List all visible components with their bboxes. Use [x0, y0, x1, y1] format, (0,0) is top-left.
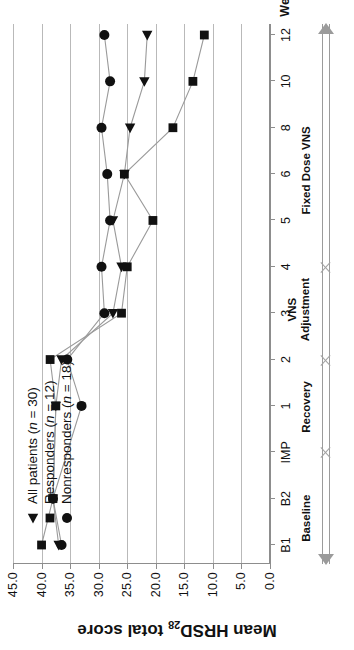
x-tick-label: B1: [279, 537, 293, 552]
legend-marker-circle-icon: [60, 504, 74, 526]
x-tick-mark: [269, 451, 275, 452]
y-tick-mark: [270, 563, 271, 569]
data-point-marker: [99, 308, 109, 318]
data-point-marker: [105, 76, 115, 86]
data-point-marker: [142, 31, 152, 41]
y-tick-mark: [156, 563, 157, 569]
data-point-marker: [169, 123, 178, 132]
x-tick-label: 12: [279, 28, 293, 42]
data-point-marker: [99, 30, 109, 40]
data-point-marker: [149, 216, 158, 225]
phase-bracket-group: BaselineRecoveryVNS AdjustmentFixed Dose…: [302, 24, 344, 564]
legend-item: All patients (n = 30): [24, 361, 41, 526]
legend: All patients (n = 30)Responders (n = 12)…: [24, 361, 75, 526]
phase-divider-x-icon: [316, 354, 336, 367]
legend-label-suffix: = 18): [59, 361, 74, 396]
legend-label-prefix: Responders (: [42, 423, 57, 504]
data-point-marker: [62, 513, 72, 523]
legend-label: Responders (n = 12): [41, 381, 58, 504]
data-point-marker: [125, 124, 135, 134]
y-tick-mark: [70, 563, 71, 569]
data-point-marker: [27, 514, 37, 524]
x-tick-mark: [269, 359, 275, 360]
arrow-right-icon: [318, 23, 334, 34]
y-tick-mark: [99, 563, 100, 569]
data-point-marker: [45, 514, 54, 523]
data-point-marker: [77, 401, 87, 411]
chart-figure: Mean HRSD28 total score 0.05.010.015.020…: [0, 0, 354, 650]
y-tick-label: 20.0: [149, 572, 163, 597]
data-point-marker: [189, 77, 198, 86]
data-point-marker: [123, 262, 132, 271]
data-point-marker: [57, 540, 67, 550]
x-axis-title: Weeks: [278, 0, 292, 17]
x-tick-label: 5: [279, 217, 293, 224]
x-tick-label: 6: [279, 171, 293, 178]
legend-item: Responders (n = 12): [41, 361, 58, 526]
x-tick-label: 10: [279, 74, 293, 88]
legend-item: Nonresponders (n = 18): [58, 361, 75, 526]
x-tick-label: 2: [279, 356, 293, 363]
phase-rail-top: [322, 24, 323, 564]
x-tick-mark: [269, 498, 275, 499]
x-tick-mark: [269, 544, 275, 545]
legend-label: All patients (n = 30): [24, 387, 41, 504]
y-tick-label: 30.0: [92, 572, 106, 597]
legend-label-n-symbol: n: [59, 396, 74, 404]
y-tick-label: 45.0: [6, 572, 20, 597]
data-point-marker: [37, 541, 46, 550]
x-tick-mark: [269, 219, 275, 220]
x-tick-mark: [269, 80, 275, 81]
arrow-left-icon: [318, 554, 334, 565]
legend-label-suffix: = 30): [25, 387, 40, 422]
y-axis-title-tail: total score: [77, 621, 168, 640]
y-tick-mark: [42, 563, 43, 569]
legend-label-suffix: = 12): [42, 381, 57, 416]
x-tick-mark: [269, 266, 275, 267]
phase-label: Recovery: [300, 381, 313, 433]
legend-label-prefix: All patients (: [25, 430, 40, 504]
x-tick-mark: [269, 312, 275, 313]
legend-label-prefix: Nonresponders (: [59, 403, 74, 504]
x-tick-mark: [269, 173, 275, 174]
y-tick-mark: [241, 563, 242, 569]
y-tick-label: 5.0: [234, 572, 248, 590]
y-tick-label: 35.0: [63, 572, 77, 597]
data-point-marker: [97, 123, 107, 133]
data-point-marker: [105, 215, 115, 225]
x-tick-mark: [269, 127, 275, 128]
legend-label-n-symbol: n: [42, 415, 57, 423]
x-tick-label: B2: [279, 491, 293, 506]
x-tick-label: 1: [279, 402, 293, 409]
y-tick-mark: [184, 563, 185, 569]
y-tick-mark: [127, 563, 128, 569]
data-point-marker: [200, 31, 209, 40]
y-tick-mark: [13, 563, 14, 569]
data-point-marker: [117, 309, 126, 318]
x-tick-mark: [269, 405, 275, 406]
x-tick-label: IMP: [279, 441, 293, 463]
data-point-marker: [139, 77, 149, 87]
phase-label: VNS Adjustment: [286, 278, 311, 341]
legend-marker-triangle-left-icon: [26, 504, 40, 526]
phase-divider-x-icon: [316, 261, 336, 274]
legend-label: Nonresponders (n = 18): [58, 361, 75, 504]
phase-label: Fixed Dose VNS: [300, 126, 313, 214]
x-tick-mark: [269, 34, 275, 35]
y-tick-label: 40.0: [35, 572, 49, 597]
x-tick-label: 4: [279, 263, 293, 270]
legend-label-n-symbol: n: [25, 422, 40, 430]
y-axis-title-base: Mean HRSD: [180, 621, 276, 640]
y-axis-title: Mean HRSD28 total score: [77, 619, 276, 640]
y-tick-label: 15.0: [177, 572, 191, 597]
y-tick-label: 0.0: [263, 572, 277, 590]
phase-axis-bar: [322, 24, 330, 564]
phase-label: Baseline: [300, 495, 313, 542]
y-tick-mark: [213, 563, 214, 569]
y-axis-title-subscript: 28: [168, 619, 180, 631]
legend-marker-square-icon: [43, 504, 57, 526]
gridline: [270, 24, 271, 563]
phase-divider-x-icon: [316, 447, 336, 460]
data-point-marker: [120, 170, 129, 179]
y-tick-label: 10.0: [206, 572, 220, 597]
